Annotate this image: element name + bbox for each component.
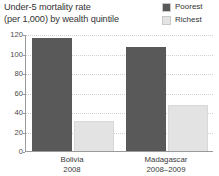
bar-poorest-1 xyxy=(126,47,166,151)
x-group-label: Madagascar2008–2009 xyxy=(119,155,213,174)
y-tick-label: 120 xyxy=(1,31,23,39)
legend-swatch-poorest-icon xyxy=(162,3,171,12)
y-tick-label: 60 xyxy=(1,90,23,98)
bar-richest-0 xyxy=(74,121,114,151)
legend-item-poorest: Poorest xyxy=(162,1,218,13)
x-axis: Bolivia2008Madagascar2008–2009 xyxy=(25,153,213,176)
page-title-line-2: (per 1,000) by wealth quintile xyxy=(4,14,154,26)
legend-label-richest: Richest xyxy=(175,15,202,25)
y-tick-label: 0 xyxy=(1,148,23,156)
bar-poorest-0 xyxy=(32,38,72,151)
x-group-name: Bolivia xyxy=(25,155,119,165)
page-title: Under-5 mortality rate (per 1,000) by we… xyxy=(4,2,154,25)
y-tick-label: 40 xyxy=(1,109,23,117)
x-group-name: Madagascar xyxy=(119,155,213,165)
legend-swatch-richest-icon xyxy=(162,16,171,25)
y-axis: 020406080100120 xyxy=(0,35,23,152)
legend-item-richest: Richest xyxy=(162,14,218,26)
bars-layer xyxy=(26,35,213,151)
x-group-period: 2008–2009 xyxy=(119,165,213,175)
y-tick-label: 100 xyxy=(1,51,23,59)
x-group-label: Bolivia2008 xyxy=(25,155,119,174)
y-tick-label: 80 xyxy=(1,70,23,78)
bar-richest-1 xyxy=(168,105,208,151)
x-group-period: 2008 xyxy=(25,165,119,175)
y-tick-label: 20 xyxy=(1,129,23,137)
plot-area xyxy=(25,35,213,152)
page-title-line-1: Under-5 mortality rate xyxy=(4,2,154,14)
legend-label-poorest: Poorest xyxy=(175,2,203,12)
chart-legend: Poorest Richest xyxy=(162,1,218,27)
